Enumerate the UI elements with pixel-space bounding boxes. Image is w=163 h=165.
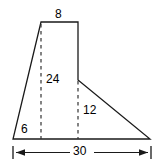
figure-canvas [0,0,163,165]
right-height-label: 12 [83,104,96,116]
left-height-label: 24 [46,73,59,85]
polygon-outline [13,22,150,139]
left-base-label: 6 [21,123,28,135]
top-width-label: 8 [55,8,62,20]
geometry-figure: 8 24 12 6 30 [0,0,163,165]
total-width-label: 30 [73,145,86,157]
dimension-arrowhead-right [139,149,148,155]
dimension-arrowhead-left [16,149,25,155]
